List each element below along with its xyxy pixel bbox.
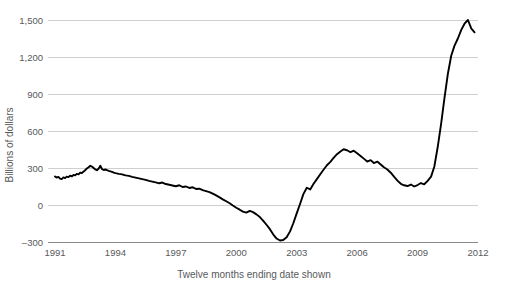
gridlines (48, 21, 478, 243)
x-tick-label: 1994 (105, 247, 126, 258)
y-tick-label: 1,500 (19, 15, 43, 26)
y-tick-label: 600 (27, 126, 43, 137)
x-tick-label: 2012 (467, 247, 488, 258)
x-axis-title: Twelve months ending date shown (177, 269, 330, 280)
x-axis-tick-labels: 19911994199720002003200620092012 (44, 247, 488, 258)
y-axis-title: Billions of dollars (4, 107, 15, 182)
x-tick-label: 1991 (44, 247, 65, 258)
x-tick-label: 2003 (286, 247, 307, 258)
y-axis-tick-labels: –30003006009001,2001,500 (19, 15, 43, 248)
y-tick-label: 1,200 (19, 52, 43, 63)
x-tick-label: 1997 (165, 247, 186, 258)
y-tick-label: 300 (27, 163, 43, 174)
y-tick-label: 0 (38, 200, 43, 211)
y-tick-label: 900 (27, 89, 43, 100)
chart-container: –30003006009001,2001,500 199119941997200… (0, 0, 509, 287)
x-tick-label: 2006 (347, 247, 368, 258)
x-tick-label: 2000 (226, 247, 247, 258)
line-chart: –30003006009001,2001,500 199119941997200… (0, 0, 509, 287)
y-tick-label: –300 (22, 237, 43, 248)
x-tick-label: 2009 (407, 247, 428, 258)
data-series-line (55, 20, 475, 241)
